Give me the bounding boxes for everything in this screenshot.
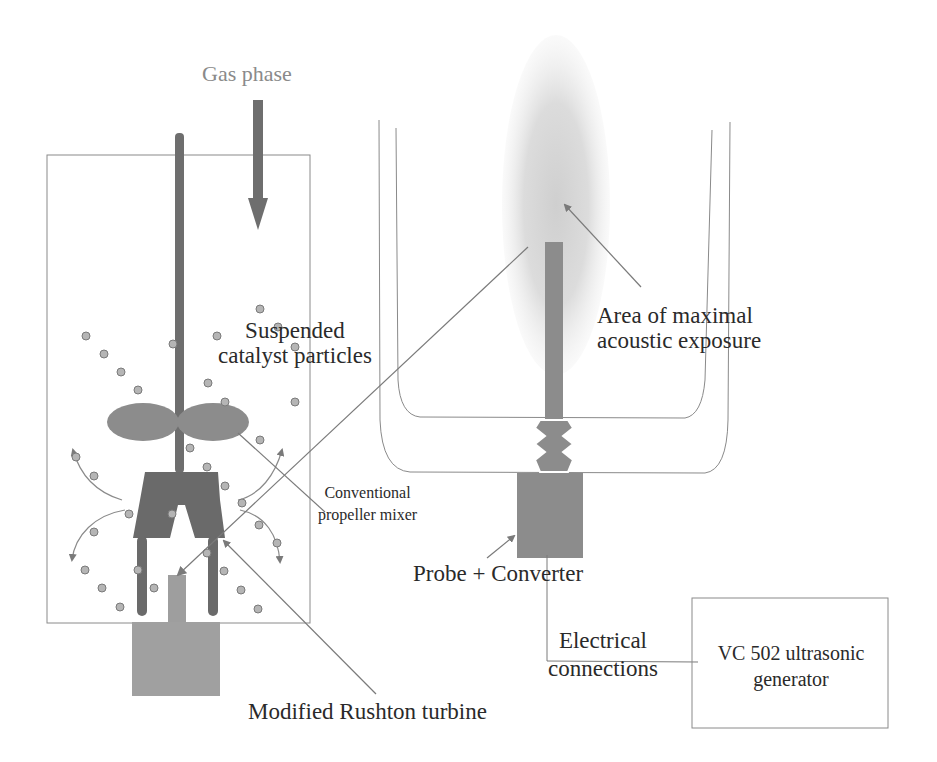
stirred-reactor (47, 100, 310, 696)
label-suspended-line2: catalyst particles (218, 343, 372, 368)
ultrasonic-probe-horn (545, 242, 563, 420)
label-modified-rushton-turbine: Modified Rushton turbine (248, 699, 487, 724)
converter (517, 473, 583, 558)
gas-inlet-arrow-icon (248, 100, 268, 230)
label-suspended-line1: Suspended (218, 318, 372, 343)
label-area-line2: acoustic exposure (597, 328, 761, 353)
label-electrical-line2: connections (548, 655, 658, 683)
probe-seal (535, 420, 573, 472)
label-electrical-connections: Electrical connections (548, 627, 658, 682)
label-electrical-line1: Electrical (548, 627, 658, 655)
label-conventional-propeller-mixer: Conventional propeller mixer (318, 482, 417, 525)
label-gas-phase: Gas phase (202, 62, 292, 86)
label-generator-line1: VC 502 ultrasonic (693, 640, 889, 666)
label-generator-line2: generator (693, 666, 889, 692)
ultrasonic-vessel (379, 35, 888, 728)
leader-rushton (224, 541, 376, 694)
label-conventional-line2: propeller mixer (318, 504, 417, 526)
drive-shaft-stub (168, 575, 186, 625)
leader-propeller (238, 433, 325, 512)
label-suspended-catalyst-particles: Suspended catalyst particles (218, 318, 372, 369)
label-ultrasonic-generator: VC 502 ultrasonic generator (693, 640, 889, 692)
label-conventional-line1: Conventional (318, 482, 417, 504)
leader-probe (487, 536, 514, 558)
drive-motor (132, 622, 220, 696)
label-area-acoustic-exposure: Area of maximal acoustic exposure (597, 303, 761, 354)
label-probe-converter: Probe + Converter (413, 561, 583, 586)
label-area-line1: Area of maximal (597, 303, 761, 328)
